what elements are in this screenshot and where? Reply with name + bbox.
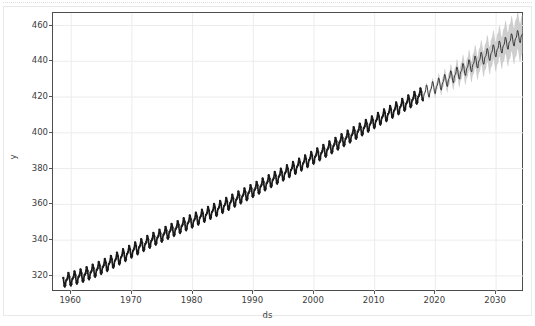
x-tick-mark — [313, 291, 314, 294]
figure-canvas: 320340360380400420440460 196019701980199… — [0, 0, 535, 326]
x-axis-label: ds — [0, 310, 535, 320]
x-tick-label: 1980 — [167, 296, 217, 305]
x-tick-mark — [70, 291, 71, 294]
plot-drawing — [53, 13, 524, 292]
y-tick-label: 360 — [8, 199, 48, 208]
y-tick-labels: 320340360380400420440460 — [4, 12, 48, 291]
y-tick-label: 380 — [8, 163, 48, 172]
x-tick-mark — [374, 291, 375, 294]
x-tick-label: 2020 — [409, 296, 459, 305]
x-tick-labels: 19601970198019902000201020202030 — [52, 296, 523, 310]
y-tick-mark — [49, 60, 52, 61]
gridlines-vertical — [71, 13, 496, 292]
x-tick-label: 1990 — [227, 296, 277, 305]
y-tick-mark — [49, 203, 52, 204]
y-axis-label: y — [8, 154, 18, 159]
x-tick-label: 1970 — [106, 296, 156, 305]
figure-top-rule — [3, 2, 532, 3]
y-tick-label: 440 — [8, 56, 48, 65]
y-tick-mark — [49, 96, 52, 97]
uncertainty-band — [423, 13, 522, 102]
y-tick-mark — [49, 132, 52, 133]
x-tick-label: 2000 — [288, 296, 338, 305]
y-tick-mark — [49, 275, 52, 276]
x-tick-label: 2010 — [349, 296, 399, 305]
history-line — [63, 88, 423, 287]
x-tick-label: 1960 — [45, 296, 95, 305]
x-tick-mark — [252, 291, 253, 294]
x-tick-mark — [495, 291, 496, 294]
gridlines-horizontal — [53, 26, 524, 276]
y-tick-label: 420 — [8, 92, 48, 101]
y-tick-label: 460 — [8, 20, 48, 29]
y-tick-label: 340 — [8, 235, 48, 244]
y-tick-label: 320 — [8, 271, 48, 280]
y-tick-mark — [49, 25, 52, 26]
y-tick-label: 400 — [8, 128, 48, 137]
x-tick-mark — [434, 291, 435, 294]
y-tick-marks — [49, 12, 52, 291]
y-tick-mark — [49, 239, 52, 240]
x-tick-marks — [52, 291, 523, 294]
y-tick-mark — [49, 168, 52, 169]
x-tick-label: 2030 — [470, 296, 520, 305]
x-tick-mark — [192, 291, 193, 294]
plot-axes — [52, 12, 523, 291]
x-tick-mark — [131, 291, 132, 294]
